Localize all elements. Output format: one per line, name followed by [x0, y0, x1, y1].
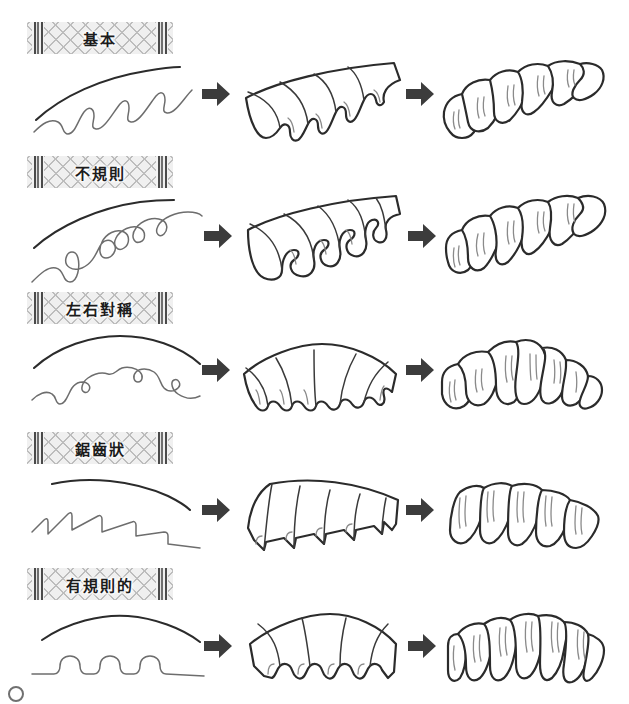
footnote-circle-icon — [8, 686, 24, 702]
arrow-right-icon — [202, 632, 234, 664]
arrow-right-icon — [200, 356, 232, 388]
label-ribbon-kyoshijo: 鋸齒狀 — [27, 432, 173, 464]
kihon-finished-ruffle-form — [438, 56, 610, 146]
label-kihon: 基本 — [27, 22, 173, 54]
kyoshijo-finished-ruffle-form — [436, 466, 610, 556]
fukisoku-finished-ruffle-form — [440, 190, 612, 282]
label-ribbon-sayutaisho: 左右對稱 — [27, 292, 173, 324]
kihon-flat-pleat-form — [236, 58, 406, 146]
arrow-right-icon — [404, 356, 436, 388]
pattern-row-sayutaisho: 左右對稱 — [0, 276, 629, 426]
kyoshijo-cut-line-sketch — [28, 474, 204, 554]
sayutaisho-finished-ruffle-form — [436, 328, 610, 416]
arrow-right-icon — [404, 80, 436, 112]
sayutaisho-flat-pleat-form — [234, 330, 406, 418]
yukisokuteki-flat-pleat-form — [238, 604, 408, 692]
yukisokuteki-finished-ruffle-form — [440, 602, 612, 690]
pattern-sheet: 基本 — [0, 0, 629, 704]
arrow-right-icon — [200, 80, 232, 112]
arrow-right-icon — [200, 496, 232, 528]
kyoshijo-flat-pleat-form — [234, 468, 406, 556]
arrow-right-icon — [406, 632, 438, 664]
arrow-right-icon — [202, 222, 234, 254]
label-kyoshijo: 鋸齒狀 — [27, 432, 173, 464]
kihon-cut-line-sketch — [28, 62, 198, 142]
yukisokuteki-cut-line-sketch — [28, 608, 208, 684]
arrow-right-icon — [404, 496, 436, 528]
label-yukisokuteki: 有規則的 — [27, 568, 173, 600]
arrow-right-icon — [406, 222, 438, 254]
label-ribbon-kihon: 基本 — [27, 22, 173, 54]
label-fukisoku: 不規則 — [27, 156, 173, 188]
label-ribbon-yukisokuteki: 有規則的 — [27, 568, 173, 600]
pattern-row-yukisokuteki: 有規則的 — [0, 552, 629, 702]
sayutaisho-cut-line-sketch — [28, 334, 204, 414]
label-sayutaisho: 左右對稱 — [27, 292, 173, 324]
pattern-row-fukisoku: 不規則 — [0, 138, 629, 288]
pattern-row-kihon: 基本 — [0, 0, 629, 150]
label-ribbon-fukisoku: 不規則 — [27, 156, 173, 188]
fukisoku-cut-line-sketch — [28, 196, 206, 286]
fukisoku-flat-pleat-form — [238, 192, 408, 284]
pattern-row-kyoshijo: 鋸齒狀 — [0, 414, 629, 564]
